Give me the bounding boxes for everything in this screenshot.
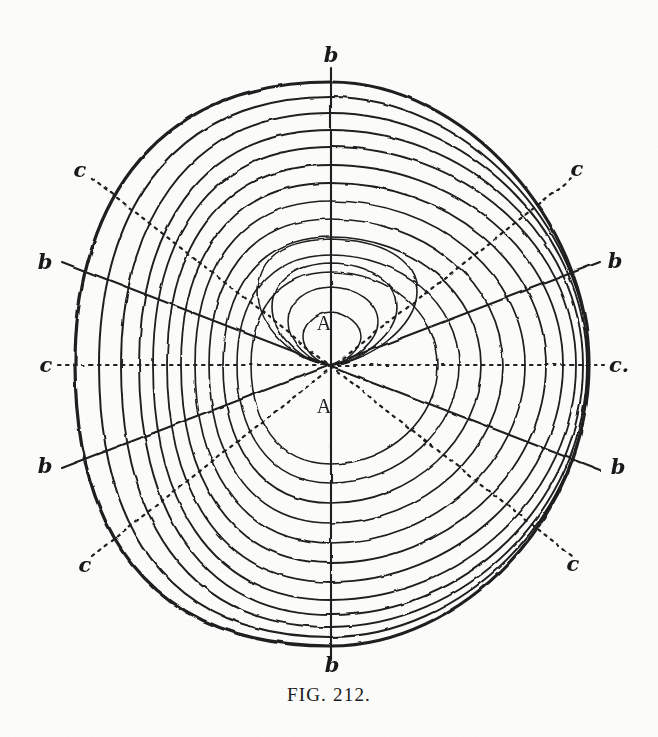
label-b-lower-left: b bbox=[38, 453, 53, 478]
figure-page: b b b b b b c c c c. c c A A FIG. 212. bbox=[0, 0, 658, 737]
label-c-lower-right: c bbox=[567, 551, 580, 576]
label-b-upper-right: b bbox=[608, 248, 623, 273]
label-c-left: c bbox=[40, 352, 53, 377]
label-a-lower: A bbox=[317, 395, 332, 417]
label-a-upper: A bbox=[317, 312, 332, 334]
label-b-top: b bbox=[324, 42, 339, 67]
figure-caption-text: FIG. 212. bbox=[287, 684, 371, 705]
tree-ring-diagram: b b b b b b c c c c. c c A A bbox=[0, 0, 658, 700]
label-c-upper-right: c bbox=[571, 156, 584, 181]
label-c-upper-left: c bbox=[74, 157, 87, 182]
label-b-bottom: b bbox=[325, 652, 340, 677]
label-b-lower-right: b bbox=[611, 454, 626, 479]
label-c-lower-left: c bbox=[79, 552, 92, 577]
label-c-right: c. bbox=[609, 352, 629, 377]
label-b-upper-left: b bbox=[38, 249, 53, 274]
ring-5 bbox=[251, 272, 438, 464]
ring-7 bbox=[223, 237, 481, 503]
figure-caption: FIG. 212. bbox=[0, 684, 658, 706]
